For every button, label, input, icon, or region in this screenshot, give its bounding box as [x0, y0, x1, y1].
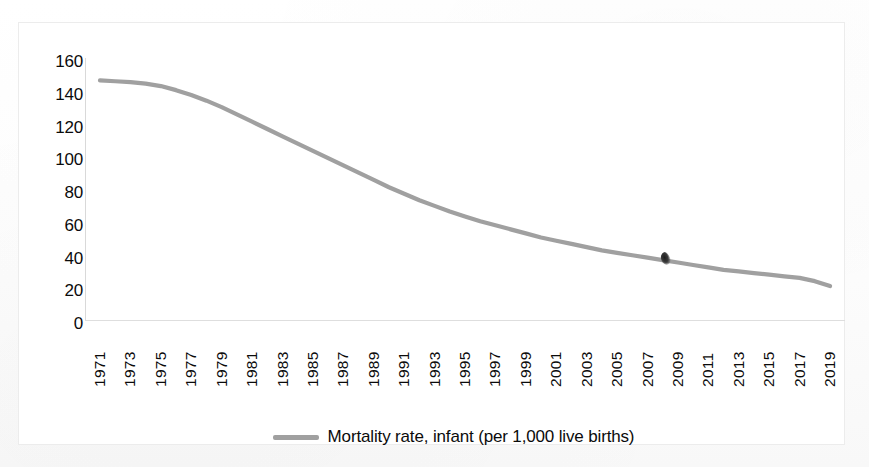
- y-axis-tick-20: 20: [31, 282, 83, 299]
- x-axis-tick-1991: 1991: [396, 325, 412, 387]
- plot-area: [85, 61, 845, 320]
- legend-label: Mortality rate, infant (per 1,000 live b…: [328, 427, 635, 447]
- x-axis-tick-1995: 1995: [457, 325, 473, 387]
- x-axis-tick-2011: 2011: [700, 325, 716, 387]
- x-axis-tick-labels: 1971197319751977197919811983198519871989…: [85, 323, 845, 411]
- x-axis-tick-1987: 1987: [335, 325, 351, 387]
- x-axis-tick-1977: 1977: [183, 325, 199, 387]
- x-axis-tick-1985: 1985: [305, 325, 321, 387]
- x-axis-tick-2007: 2007: [640, 325, 656, 387]
- x-axis-tick-1989: 1989: [366, 325, 382, 387]
- x-axis-tick-2013: 2013: [731, 325, 747, 387]
- x-axis-tick-2017: 2017: [792, 325, 808, 387]
- x-axis-tick-1997: 1997: [487, 325, 503, 387]
- y-axis-tick-100: 100: [31, 151, 83, 168]
- series-line-infant-mortality: [100, 80, 830, 286]
- x-axis-line: [85, 320, 845, 321]
- x-axis-tick-2001: 2001: [548, 325, 564, 387]
- y-axis-tick-160: 160: [31, 53, 83, 70]
- x-axis-tick-1979: 1979: [214, 325, 230, 387]
- x-axis-tick-1975: 1975: [153, 325, 169, 387]
- legend-line-swatch-icon: [273, 435, 319, 440]
- x-axis-tick-2019: 2019: [822, 325, 838, 387]
- x-axis-tick-2005: 2005: [609, 325, 625, 387]
- x-axis-tick-1993: 1993: [427, 325, 443, 387]
- y-axis-tick-40: 40: [31, 250, 83, 267]
- x-axis-tick-2015: 2015: [761, 325, 777, 387]
- y-axis-tick-120: 120: [31, 119, 83, 136]
- y-axis-tick-80: 80: [31, 184, 83, 201]
- x-axis-tick-1981: 1981: [244, 325, 260, 387]
- y-axis-tick-labels: 160140120100806040200: [31, 61, 83, 323]
- x-axis-tick-1971: 1971: [92, 325, 108, 387]
- x-axis-tick-2009: 2009: [670, 325, 686, 387]
- x-axis-tick-1999: 1999: [518, 325, 534, 387]
- chart-frame: 160140120100806040200 197119731975197719…: [18, 22, 845, 445]
- x-axis-tick-1983: 1983: [275, 325, 291, 387]
- y-axis-tick-60: 60: [31, 217, 83, 234]
- y-axis-tick-0: 0: [31, 315, 83, 332]
- y-axis-tick-140: 140: [31, 86, 83, 103]
- chart-legend: Mortality rate, infant (per 1,000 live b…: [19, 427, 869, 447]
- series-line-chart: [85, 61, 845, 320]
- x-axis-tick-2003: 2003: [579, 325, 595, 387]
- x-axis-tick-1973: 1973: [122, 325, 138, 387]
